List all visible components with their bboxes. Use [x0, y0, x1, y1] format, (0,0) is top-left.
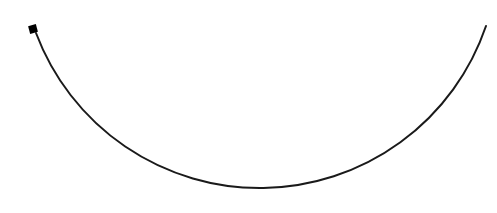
semicircle-arc — [36, 26, 486, 188]
diagram-canvas — [0, 0, 497, 213]
